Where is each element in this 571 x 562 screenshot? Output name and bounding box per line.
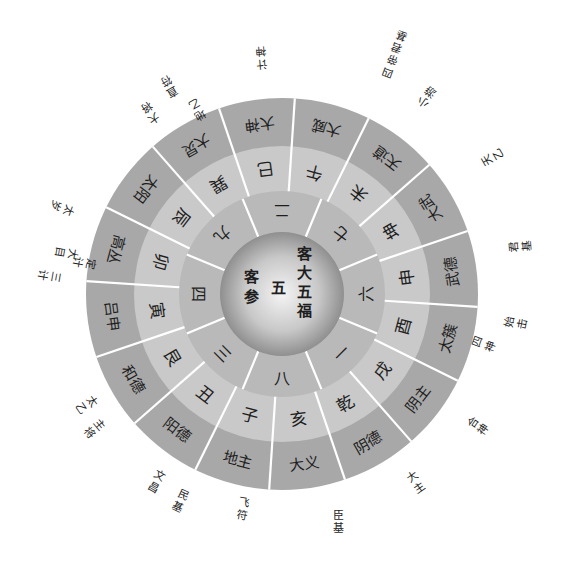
outside-label: 始击 xyxy=(502,315,530,331)
outside-label: 飞符 xyxy=(235,496,250,524)
outside-label-char: 君 xyxy=(507,241,521,253)
core-right-char: 福 xyxy=(296,302,312,320)
palace-number-label: 二 xyxy=(274,201,290,220)
palace-label: 巳 xyxy=(256,158,275,180)
outside-label: 大目 xyxy=(52,245,80,261)
core-left-char: 客 xyxy=(243,268,260,286)
palace-label: 申 xyxy=(396,268,418,287)
taiyi-divination-wheel: 大威天道大武武德太簇阴主阴德大义地主阳德和德吕申高丛太阳大炅大神 午未坤申酉戌乾… xyxy=(0,0,571,562)
outside-label: 天乙 xyxy=(479,145,507,168)
outside-label: 民基 xyxy=(170,487,191,515)
palace-label: 寅 xyxy=(146,301,168,320)
outside-label: 地乙 xyxy=(185,95,208,123)
outside-label: 直符 xyxy=(157,72,180,101)
outside-label-char: 击 xyxy=(515,318,530,331)
outside-label: 大将 xyxy=(138,99,162,127)
outside-label-char: 计 xyxy=(256,57,268,71)
core-center-char: 五 xyxy=(271,279,286,297)
outside-label: 小游 xyxy=(415,83,439,111)
outside-label: 臣基 xyxy=(333,509,344,535)
outside-label: 主将 xyxy=(81,417,108,442)
outside-label: 三计 xyxy=(35,268,63,283)
core-circle: 客大五福五客参 xyxy=(220,232,344,356)
core-right-char: 大 xyxy=(297,264,312,282)
outside-label: 太岁 xyxy=(48,198,76,217)
outside-label-char: 神 xyxy=(255,44,267,59)
palace-number-label: 八 xyxy=(274,369,290,388)
outside-label: 合神 xyxy=(464,413,492,437)
outside-label: 大主 xyxy=(403,468,427,496)
outside-label-char: 目 xyxy=(52,245,67,258)
core-left-char: 参 xyxy=(244,288,260,306)
outside-label-char: 基 xyxy=(333,522,344,535)
wheel-svg: 大威天道大武武德太簇阴主阴德大义地主阳德和德吕申高丛太阳大炅大神 午未坤申酉戌乾… xyxy=(0,0,571,562)
outside-label: 四帝君基 xyxy=(381,27,409,80)
outside-label-char: 计 xyxy=(35,268,50,281)
outside-label: 四神 xyxy=(470,335,498,354)
outside-label: 文昌 xyxy=(145,467,168,496)
outside-label: 太乙 xyxy=(73,393,101,417)
outside-label-char: 臣 xyxy=(333,509,344,522)
outside-label-char: 符 xyxy=(235,508,248,523)
palace-number-label: 四 xyxy=(189,286,208,302)
outside-label: 计神 xyxy=(255,44,268,71)
outside-label-char: 基 xyxy=(520,240,534,252)
palace-label: 亥 xyxy=(289,408,308,430)
core-right-char: 客 xyxy=(296,245,313,263)
palace-number-label: 六 xyxy=(357,286,376,302)
outside-label: 君基 xyxy=(507,240,534,253)
outside-label-char: 基 xyxy=(394,27,409,43)
core-right-char: 五 xyxy=(297,283,312,301)
